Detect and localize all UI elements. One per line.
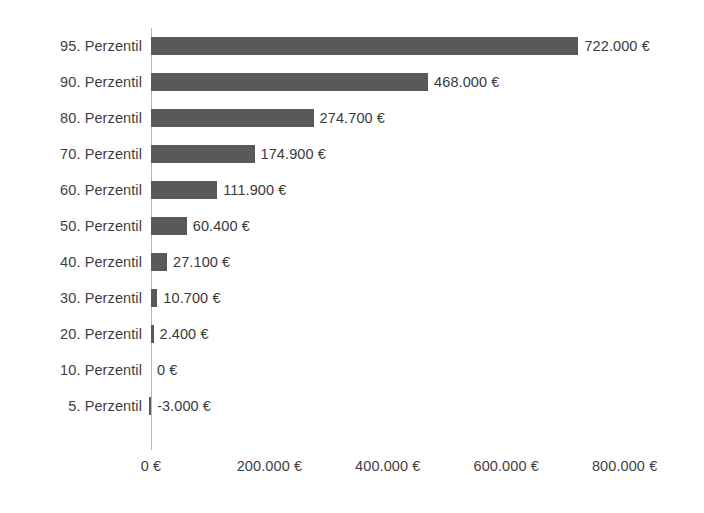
bar-row: 20. Perzentil2.400 €: [0, 316, 704, 352]
bar-row: 40. Perzentil27.100 €: [0, 244, 704, 280]
category-label: 40. Perzentil: [0, 244, 142, 280]
category-label: 95. Perzentil: [0, 28, 142, 64]
value-label: 111.900 €: [223, 172, 286, 208]
bar-fill: [149, 397, 152, 415]
bar-fill: [151, 289, 157, 307]
bar-fill: [151, 325, 154, 343]
value-label: 468.000 €: [434, 64, 499, 100]
bar-row: 10. Perzentil0 €: [0, 352, 704, 388]
bar-fill: [151, 217, 187, 235]
bar-row: 95. Perzentil722.000 €: [0, 28, 704, 64]
bar-fill: [151, 109, 314, 127]
category-label: 20. Perzentil: [0, 316, 142, 352]
x-tick-label: 0 €: [141, 458, 161, 474]
category-label: 90. Perzentil: [0, 64, 142, 100]
bar-row: 80. Perzentil274.700 €: [0, 100, 704, 136]
bar: [151, 253, 167, 271]
value-label: 27.100 €: [173, 244, 230, 280]
bar-row: 5. Perzentil-3.000 €: [0, 388, 704, 424]
bar: [149, 397, 152, 415]
bar: [151, 325, 154, 343]
value-label: -3.000 €: [157, 388, 211, 424]
bar-chart: 95. Perzentil722.000 €90. Perzentil468.0…: [0, 0, 704, 513]
bar: [151, 73, 428, 91]
category-label: 5. Perzentil: [0, 388, 142, 424]
value-label: 174.900 €: [261, 136, 326, 172]
bar: [151, 109, 314, 127]
bar-fill: [151, 181, 217, 199]
x-tick-label: 800.000 €: [592, 458, 657, 474]
category-label: 80. Perzentil: [0, 100, 142, 136]
value-label: 0 €: [157, 352, 177, 388]
value-label: 60.400 €: [193, 208, 250, 244]
bar-row: 30. Perzentil10.700 €: [0, 280, 704, 316]
value-label: 10.700 €: [163, 280, 220, 316]
bar: [151, 37, 578, 55]
bar-fill: [151, 37, 578, 55]
value-label: 274.700 €: [320, 100, 385, 136]
bar-row: 60. Perzentil111.900 €: [0, 172, 704, 208]
category-label: 50. Perzentil: [0, 208, 142, 244]
category-label: 60. Perzentil: [0, 172, 142, 208]
bar: [151, 181, 217, 199]
bar-fill: [151, 253, 167, 271]
x-tick-label: 400.000 €: [355, 458, 420, 474]
plot-area: 95. Perzentil722.000 €90. Perzentil468.0…: [0, 0, 704, 513]
bar-row: 50. Perzentil60.400 €: [0, 208, 704, 244]
x-tick-label: 200.000 €: [237, 458, 302, 474]
x-tick-label: 600.000 €: [473, 458, 538, 474]
category-label: 10. Perzentil: [0, 352, 142, 388]
category-label: 30. Perzentil: [0, 280, 142, 316]
bar: [151, 289, 157, 307]
bar-row: 90. Perzentil468.000 €: [0, 64, 704, 100]
bar: [151, 217, 187, 235]
bar-fill: [151, 145, 255, 163]
value-label: 722.000 €: [584, 28, 649, 64]
value-label: 2.400 €: [160, 316, 209, 352]
category-label: 70. Perzentil: [0, 136, 142, 172]
bar: [151, 145, 255, 163]
bar-row: 70. Perzentil174.900 €: [0, 136, 704, 172]
bar-fill: [151, 73, 428, 91]
